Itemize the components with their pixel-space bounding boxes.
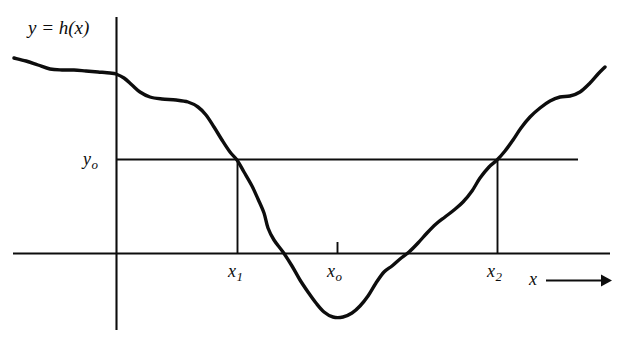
function-curve-h	[14, 58, 605, 318]
axis-label-x2-subscript: 2	[495, 269, 502, 284]
axis-label-y0-subscript: o	[91, 157, 98, 172]
curve-label: y = h(x)	[28, 18, 89, 37]
axis-label-x0-subscript: o	[335, 269, 342, 284]
axis-label-x1-base: x	[228, 261, 236, 281]
axis-label-y0: yo	[83, 150, 98, 172]
axis-label-y0-base: y	[83, 149, 91, 169]
axis-label-x0-base: x	[327, 261, 335, 281]
x-axis-label: x	[529, 270, 537, 288]
axis-label-x2: x2	[487, 262, 502, 284]
axis-label-x1-subscript: 1	[236, 269, 243, 284]
axis-label-x1: x1	[228, 262, 243, 284]
x-axis-arrow-icon	[546, 275, 612, 287]
axis-label-x0: xo	[327, 262, 342, 284]
function-graph-figure: y = h(x) yo x1 xo x2 x	[0, 0, 617, 342]
axis-label-x2-base: x	[487, 261, 495, 281]
